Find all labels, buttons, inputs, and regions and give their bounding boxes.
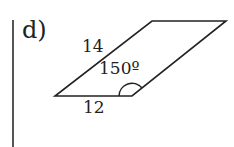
- parallelogram-shape: [55, 21, 226, 96]
- angle-measure-label: 150º: [99, 60, 139, 77]
- angle-arc-icon: [119, 83, 142, 96]
- part-label: d): [22, 18, 47, 42]
- slanted-side-length-label: 14: [82, 38, 104, 55]
- base-length-label: 12: [83, 99, 105, 116]
- geometry-problem-d: d) 14 150º 12: [0, 0, 234, 147]
